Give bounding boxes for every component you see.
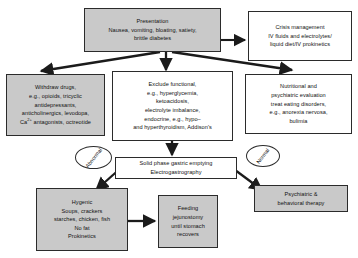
node-test-line-1: Electrogastrography: [150, 169, 201, 175]
node-feeding-line-0: Feeding: [178, 205, 199, 211]
node-withdraw-line-4: Ca2+ antagonists, octreotide: [20, 119, 91, 125]
node-nutritional-line-2: treat eating disorders,: [271, 101, 326, 107]
node-test-line-0: Solid phase gastric emptying: [140, 160, 213, 166]
node-withdraw-line-2: antidepressants,: [35, 102, 77, 108]
node-nutritional-line-0: Nutritional and: [280, 83, 317, 89]
node-exclude-line-5: and hyperthyroidism, Addison's: [133, 124, 212, 130]
node-hygienic-line-3: No fat: [74, 225, 89, 231]
node-withdraw-line-1: e.g., opioids, tricyclic: [29, 93, 82, 99]
branch-label-normal-text: Normal: [255, 147, 270, 164]
node-psychiatric-line-0: Psychiatric &: [285, 191, 318, 197]
node-hygienic-line-2: starches, chicken, fish: [54, 216, 110, 222]
node-hygienic-line-4: Prokinetics: [68, 233, 96, 239]
node-presentation-line-1: Nausea, vomiting, bloating, satiety,: [108, 27, 196, 33]
node-nutritional-line-1: psychiatric evaluation: [271, 92, 326, 98]
node-exclude-line-4: endocrine, e.g., hypo–: [144, 116, 200, 122]
flowchart-canvas: Presentation Nausea, vomiting, bloating,…: [0, 0, 358, 258]
branch-label-abnormal: Abnormal: [75, 146, 112, 169]
node-crisis-line-1: IV fluids and electrolytes/: [268, 33, 332, 39]
node-gastric-emptying-test[interactable]: Solid phase gastric emptying Electrogast…: [115, 157, 237, 179]
node-nutritional-line-4: bulimia: [289, 118, 307, 124]
node-exclude-functional[interactable]: Exclude functional, e.g., hyperglycemia,…: [112, 71, 233, 141]
node-feeding-line-1: jejunostomy: [173, 214, 203, 220]
node-psychiatric-therapy[interactable]: Psychiatric & behavioral therapy: [254, 185, 348, 212]
node-feeding-line-3: recovers: [177, 231, 199, 237]
node-presentation[interactable]: Presentation Nausea, vomiting, bloating,…: [84, 8, 221, 52]
node-exclude-line-1: e.g., hyperglycemia,: [147, 90, 198, 96]
node-presentation-line-0: Presentation: [136, 18, 168, 24]
branch-label-normal: Normal: [246, 145, 280, 167]
node-hygienic-line-1: Soups, crackers: [62, 208, 103, 214]
node-withdraw-line-0: Withdraw drugs,: [35, 84, 76, 90]
node-crisis-line-0: Crisis management: [275, 24, 324, 30]
node-feeding-line-2: until stomach: [171, 223, 205, 229]
node-nutritional-line-3: e.g., anorexia nervosa,: [269, 109, 327, 115]
node-exclude-line-0: Exclude functional,: [149, 81, 197, 87]
node-withdraw-line-3: anticholinergics, levodopa,: [22, 110, 89, 116]
node-presentation-line-2: brittle diabetes: [134, 35, 171, 41]
node-crisis-management[interactable]: Crisis management IV fluids and electrol…: [248, 11, 352, 61]
node-hygienic[interactable]: Hygenic Soups, crackers starches, chicke…: [36, 188, 128, 251]
node-withdraw-drugs[interactable]: Withdraw drugs, e.g., opioids, tricyclic…: [6, 74, 105, 136]
arrow-presentation-to-withdraw: [41, 52, 160, 71]
branch-label-abnormal-text: Abnormal: [84, 147, 103, 169]
node-exclude-line-2: ketoacidosis,: [156, 98, 189, 104]
node-feeding-jejunostomy[interactable]: Feeding jejunostomy until stomach recove…: [158, 195, 218, 248]
node-nutritional-psychiatric[interactable]: Nutritional and psychiatric evaluation t…: [245, 74, 352, 134]
node-psychiatric-line-1: behavioral therapy: [278, 200, 325, 206]
node-hygienic-line-0: Hygenic: [72, 199, 93, 205]
node-crisis-line-2: liquid diet/IV prokinetics: [270, 41, 330, 47]
node-exclude-line-3: electrolyte imbalance,: [145, 107, 200, 113]
